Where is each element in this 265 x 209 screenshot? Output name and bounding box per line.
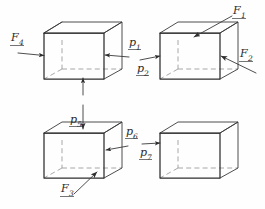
label-p1-subscript: 1 xyxy=(136,43,141,52)
label-f2-symbol: F xyxy=(239,47,248,60)
box-1-edges xyxy=(44,22,122,79)
arrow-p2 xyxy=(140,56,160,60)
box-2-edges xyxy=(160,22,238,79)
box-2: F 1 F 2 p 2 xyxy=(136,4,256,79)
box-3-hidden-edges xyxy=(44,140,122,178)
label-p2: p 2 xyxy=(136,62,149,78)
label-p7-symbol: p xyxy=(140,146,147,159)
arrow-p7 xyxy=(142,143,160,144)
box-4-hidden-edges xyxy=(160,140,238,178)
label-p6-symbol: p xyxy=(126,125,133,138)
box-3-edges xyxy=(44,122,122,178)
label-p5: p 5 xyxy=(69,113,82,129)
box-1: F 4 p 1 xyxy=(10,22,141,95)
box-4-edges xyxy=(160,122,238,178)
label-p2-symbol: p xyxy=(137,62,144,75)
diagram-canvas: F 4 p 1 xyxy=(0,0,265,209)
arrow-p6 xyxy=(106,146,128,150)
box-2-hidden-edges xyxy=(160,40,238,79)
label-p5-subscript: 5 xyxy=(77,120,82,129)
label-f3: F 3 xyxy=(60,182,74,198)
label-f3-symbol: F xyxy=(60,182,69,195)
label-p7-subscript: 7 xyxy=(147,153,152,162)
label-f4-symbol: F xyxy=(10,31,19,44)
label-p1-symbol: p xyxy=(129,36,136,49)
box-3: p 5 p 6 F 3 xyxy=(44,105,138,198)
label-f1: F 1 xyxy=(232,4,246,20)
box-4: p 7 xyxy=(139,122,238,178)
label-f4: F 4 xyxy=(10,31,24,47)
label-p1: p 1 xyxy=(128,36,141,52)
force-pressure-diagram: F 4 p 1 xyxy=(0,0,265,209)
box-1-hidden-edges xyxy=(44,40,122,79)
label-p2-subscript: 2 xyxy=(143,69,149,78)
label-p5-symbol: p xyxy=(70,113,77,126)
label-p7: p 7 xyxy=(139,146,152,162)
label-f1-symbol: F xyxy=(232,4,241,17)
label-p6: p 6 xyxy=(125,125,138,141)
label-f2: F 2 xyxy=(239,47,253,63)
arrow-p1 xyxy=(105,55,129,57)
label-p6-subscript: 6 xyxy=(133,132,138,141)
arrow-f4 xyxy=(18,53,44,56)
arrow-f1 xyxy=(194,16,232,37)
arrow-f3 xyxy=(74,172,97,194)
